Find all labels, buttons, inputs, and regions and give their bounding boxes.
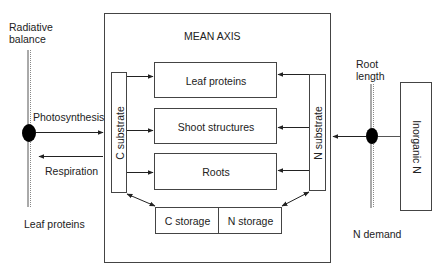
c-substrate-label: C substrate <box>114 106 126 160</box>
radiative-balance-line1: Radiative <box>9 21 53 33</box>
root-length-line1: Root <box>356 58 385 70</box>
radiative-balance-line2: balance <box>9 33 53 45</box>
roots-label: Roots <box>155 154 277 190</box>
leaf-proteins-label: Leaf proteins <box>155 63 277 98</box>
radiative-balance-label: Radiative balance <box>9 21 53 45</box>
root-length-node <box>366 128 378 144</box>
arrow-c-storage-exchange <box>127 194 155 206</box>
radiative-node <box>22 124 36 142</box>
inorganic-n-label-wrap: Inorganic N <box>401 83 432 211</box>
c-substrate-label-wrap: C substrate <box>112 73 127 193</box>
n-substrate-label-wrap: N substrate <box>310 75 326 191</box>
inorganic-n-label: Inorganic N <box>411 120 423 174</box>
arrow-n-storage-exchange <box>282 192 309 206</box>
n-substrate-label: N substrate <box>312 106 324 160</box>
leaf-proteins-driver-label: Leaf proteins <box>24 218 85 230</box>
respiration-label: Respiration <box>45 165 98 177</box>
n-demand-label: N demand <box>353 228 401 240</box>
c-storage-label: C storage <box>156 208 219 234</box>
photosynthesis-label: Photosynthesis <box>33 111 104 123</box>
root-length-line2: length <box>356 70 385 82</box>
mean-axis-title: MEAN AXIS <box>184 30 241 42</box>
root-length-label: Root length <box>356 58 385 82</box>
shoot-structures-label: Shoot structures <box>155 109 277 144</box>
n-storage-label: N storage <box>219 208 282 234</box>
